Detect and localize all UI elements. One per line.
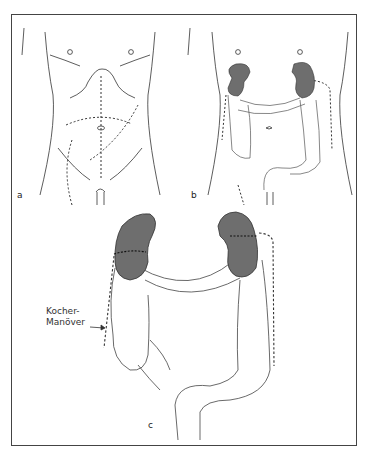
panel-c-label: c: [148, 420, 153, 430]
kocher-maneuver-annotation: Kocher- Manöver: [46, 306, 85, 328]
panel-b-torso: [188, 28, 352, 205]
panel-c-kidneys: [115, 212, 258, 280]
annotation-line-2: Manöver: [46, 317, 85, 328]
panel-a-torso: [22, 28, 160, 205]
panel-a-label: a: [17, 190, 23, 200]
anatomy-illustration: [0, 0, 369, 457]
panel-c-colon: [111, 260, 270, 440]
panel-a-incisions: [66, 76, 138, 205]
panel-b-label: b: [191, 190, 197, 200]
panel-b-colon: [228, 95, 320, 190]
annotation-line-1: Kocher-: [46, 306, 85, 317]
panel-b-kidneys: [228, 62, 315, 98]
